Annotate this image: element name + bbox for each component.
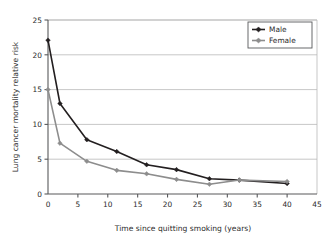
y-axis-tick-label: 10: [33, 120, 43, 129]
legend-label: Female: [269, 36, 296, 45]
x-axis-tick-label: 20: [163, 200, 173, 209]
line-chart-figure: 0510152025051015202530354045 MaleFemale …: [0, 0, 336, 240]
x-axis-tick-label: 40: [282, 200, 292, 209]
x-axis-tick-label: 5: [76, 200, 81, 209]
y-axis-tick-label: 5: [37, 155, 42, 164]
x-axis-tick-label: 45: [312, 200, 322, 209]
x-axis-tick-label: 35: [253, 200, 263, 209]
y-axis-tick-label: 20: [33, 51, 43, 60]
x-axis-title: Time since quitting smoking (years): [114, 224, 251, 233]
x-axis-tick-label: 15: [133, 200, 143, 209]
y-axis-tick-label: 25: [33, 16, 43, 25]
x-axis-tick-label: 30: [223, 200, 233, 209]
y-axis-tick-label: 0: [37, 190, 42, 199]
y-axis-tick-label: 15: [33, 85, 43, 94]
x-axis-tick-label: 10: [103, 200, 113, 209]
legend-label: Male: [269, 25, 287, 34]
x-axis-tick-label: 0: [46, 200, 51, 209]
x-axis-tick-label: 25: [193, 200, 203, 209]
chart-legend: MaleFemale: [248, 22, 312, 48]
y-axis-title: Lung cancer mortality relative risk: [11, 41, 20, 172]
